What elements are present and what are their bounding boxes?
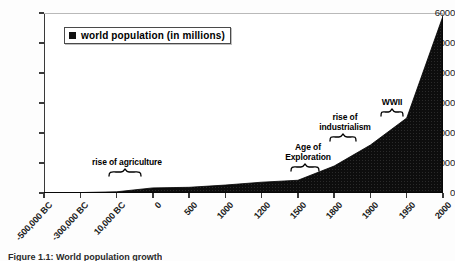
x-axis-tick-mark xyxy=(370,193,372,198)
x-axis-tick-mark xyxy=(152,193,154,198)
x-axis-tick-label: 500 xyxy=(182,200,199,217)
x-axis-tick-mark xyxy=(406,193,408,198)
legend: world population (in millions) xyxy=(64,27,231,44)
x-axis-tick-label: 1200 xyxy=(252,200,272,221)
brace-age-of-exploration-icon xyxy=(290,163,320,172)
x-axis-tick-label: 1900 xyxy=(360,200,380,221)
x-axis-tick-mark xyxy=(261,193,263,198)
annotation-age-of-exploration-line1: Age of xyxy=(295,142,321,152)
x-axis-tick-label: -500,000 BC xyxy=(14,200,55,243)
x-axis-tick-mark xyxy=(43,193,45,198)
annotation-wwii: WWII xyxy=(374,98,410,108)
x-axis-tick-label: 2000 xyxy=(433,200,453,221)
annotation-age-of-exploration: Age of Exploration xyxy=(272,143,344,162)
annotation-rise-of-industrialism: rise of industrialism xyxy=(305,113,385,132)
annotation-rise-of-industrialism-line1: rise of xyxy=(333,112,358,122)
world-population-chart-figure: 0100020003000400050006000 -500,000 BC-30… xyxy=(0,0,455,261)
x-axis-tick-label: 1950 xyxy=(397,200,417,221)
figure-caption: Figure 1.1: World population growth xyxy=(8,252,162,261)
legend-label: world population (in millions) xyxy=(81,30,225,41)
legend-swatch-icon xyxy=(69,32,76,39)
brace-rise-of-industrialism-icon xyxy=(329,133,357,142)
x-axis-tick-mark xyxy=(297,193,299,198)
x-axis-tick-label: 1500 xyxy=(288,200,308,221)
x-axis-tick-mark xyxy=(116,193,118,198)
x-axis-tick-mark xyxy=(333,193,335,198)
annotation-rise-of-agriculture: rise of agriculture xyxy=(72,158,182,168)
x-axis-tick-label: -300,000 BC xyxy=(50,200,91,243)
annotation-age-of-exploration-line2: Exploration xyxy=(285,152,331,162)
annotation-rise-of-industrialism-line2: industrialism xyxy=(319,122,371,132)
x-axis-tick-label: 1800 xyxy=(324,200,344,221)
x-axis-tick-mark xyxy=(188,193,190,198)
brace-rise-of-agriculture-icon xyxy=(108,168,142,177)
x-axis-tick-label: 10,000 BC xyxy=(91,200,126,237)
x-axis-tick-mark xyxy=(225,193,227,198)
x-axis-tick-mark xyxy=(80,193,82,198)
brace-wwii-icon xyxy=(380,108,404,117)
x-axis-tick-label: 0 xyxy=(153,200,164,210)
x-axis-tick-label: 1000 xyxy=(215,200,235,221)
x-axis-tick-mark xyxy=(442,193,444,198)
